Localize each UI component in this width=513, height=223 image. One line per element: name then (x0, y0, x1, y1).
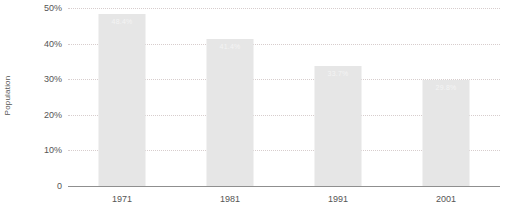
y-tick-label: 10% (22, 145, 62, 155)
bar-chart: Population 010%20%30%40%50% 48.4%41.4%33… (0, 0, 513, 223)
bar-value-label: 33.7% (315, 70, 362, 77)
bar[interactable]: 29.8% (423, 80, 470, 186)
y-tick-label: 0 (22, 181, 62, 191)
bar[interactable]: 33.7% (315, 66, 362, 186)
y-tick-label: 20% (22, 110, 62, 120)
x-tick-label: 1991 (284, 194, 392, 204)
x-tick-label: 1981 (176, 194, 284, 204)
y-axis-title-label: Population (4, 75, 13, 115)
bar-group: 33.7% (284, 8, 392, 186)
x-tick-label: 2001 (392, 194, 500, 204)
plot-area: 48.4%41.4%33.7%29.8% (68, 8, 500, 186)
bar-group: 29.8% (392, 8, 500, 186)
bar[interactable]: 48.4% (99, 14, 146, 186)
bar-group: 48.4% (68, 8, 176, 186)
x-tick-label: 1971 (68, 194, 176, 204)
bar-group: 41.4% (176, 8, 284, 186)
y-axis-title: Population (0, 0, 16, 190)
bar-value-label: 41.4% (207, 43, 254, 50)
y-tick-label: 40% (22, 39, 62, 49)
bars-layer: 48.4%41.4%33.7%29.8% (68, 8, 500, 186)
axis-baseline (68, 186, 500, 187)
bar[interactable]: 41.4% (207, 39, 254, 186)
bar-value-label: 29.8% (423, 84, 470, 91)
bar-value-label: 48.4% (99, 18, 146, 25)
y-tick-label: 30% (22, 74, 62, 84)
x-axis-tick-labels: 1971198119912001 (68, 190, 500, 210)
y-tick-label: 50% (22, 3, 62, 13)
y-axis-tick-labels: 010%20%30%40%50% (18, 8, 62, 186)
